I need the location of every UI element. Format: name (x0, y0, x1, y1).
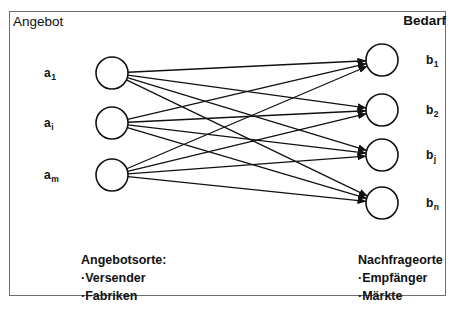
supply-caption: Angebotsorte: ·Versender ·Fabriken (81, 252, 166, 305)
edge-a1-b1 (128, 61, 366, 72)
edge-am-b1 (127, 66, 368, 168)
supply-caption-item-1: ·Fabriken (81, 288, 166, 306)
supply-node-label-am: am (44, 169, 58, 181)
supply-node-label-sub-ai: i (51, 122, 53, 132)
supply-caption-heading: Angebotsorte: (81, 252, 166, 270)
demand-node-label-b2: b2 (426, 104, 438, 116)
demand-node-label-base-b2: b (426, 103, 433, 117)
edge-ai-b1 (128, 64, 367, 120)
supply-node-ai (96, 107, 128, 139)
demand-caption-item-0: ·Empfänger (358, 270, 443, 288)
diagram-screenshot: Angebot Bedarf a1aiam b1b2bjbn Angebotso… (0, 0, 460, 317)
demand-node-label-base-b1: b (426, 53, 433, 67)
edge-ai-b2 (128, 111, 366, 122)
supply-heading: Angebot (13, 15, 63, 29)
demand-node-label-bn: bn (426, 197, 439, 209)
demand-heading: Bedarf (403, 14, 446, 28)
demand-node-b2 (366, 94, 398, 126)
demand-node-b1 (366, 44, 398, 76)
demand-node-bn (366, 187, 398, 219)
supply-node-label-a1: a1 (44, 67, 55, 79)
demand-node-label-sub-bn: n (434, 202, 439, 212)
edge-am-bj (128, 156, 366, 174)
demand-node-label-bj: bj (426, 149, 436, 161)
supply-node-am (96, 159, 128, 191)
demand-node-label-b1: b1 (426, 54, 438, 66)
edge-am-bn (128, 177, 366, 202)
supply-node-label-base-a1: a (44, 66, 51, 80)
supply-caption-item-0: ·Versender (81, 270, 166, 288)
demand-node-label-sub-b2: 2 (434, 109, 439, 119)
demand-node-label-sub-bj: j (434, 154, 436, 164)
supply-node-a1 (96, 57, 128, 89)
demand-node-label-sub-b1: 1 (434, 59, 439, 69)
demand-caption-heading: Nachfrageorte (358, 252, 443, 270)
demand-node-bj (366, 139, 398, 171)
supply-node-label-base-am: a (44, 168, 51, 182)
demand-node-label-base-bj: b (426, 148, 433, 162)
supply-node-label-sub-a1: 1 (51, 72, 56, 82)
edges-layer (126, 61, 367, 202)
supply-node-label-sub-am: m (51, 174, 59, 184)
supply-node-label-ai: ai (44, 117, 53, 129)
demand-caption-item-1: ·Märkte (358, 288, 443, 306)
demand-caption: Nachfrageorte ·Empfänger ·Märkte (358, 252, 443, 305)
supply-node-label-base-ai: a (44, 116, 51, 130)
demand-node-label-base-bn: b (426, 196, 433, 210)
